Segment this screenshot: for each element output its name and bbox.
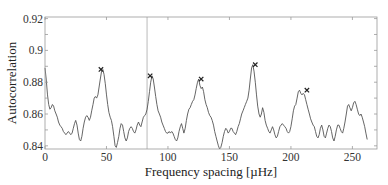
y-axis-label: Autocorrelation <box>4 41 19 124</box>
y-tick-label: 0.92 <box>23 13 43 25</box>
x-tick-label: 200 <box>282 151 300 163</box>
autocorrelation-chart: 050100150200250 0.840.860.880.90.92 Freq… <box>0 0 388 185</box>
x-axis-label: Frequency spacing [µHz] <box>145 164 277 179</box>
peak-marker-x-icon <box>305 88 309 92</box>
peak-marker-x-icon <box>253 63 257 67</box>
y-tick-label: 0.86 <box>23 108 43 120</box>
autocorrelation-line <box>45 65 367 149</box>
peak-markers <box>99 63 309 93</box>
x-tick-label: 100 <box>159 151 177 163</box>
x-tick-label: 150 <box>221 151 239 163</box>
y-axis-ticks: 0.840.860.880.90.92 <box>23 13 377 152</box>
x-axis-ticks: 050100150200250 <box>42 17 361 163</box>
x-tick-label: 250 <box>344 151 362 163</box>
y-tick-label: 0.9 <box>29 44 44 56</box>
peak-marker-x-icon <box>199 77 203 81</box>
x-tick-label: 50 <box>101 151 113 163</box>
y-tick-label: 0.88 <box>23 76 43 88</box>
x-tick-label: 0 <box>42 151 48 163</box>
y-tick-label: 0.84 <box>23 140 43 152</box>
plot-area <box>45 17 367 149</box>
